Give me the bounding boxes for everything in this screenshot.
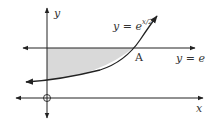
line-label: y = e	[176, 53, 205, 64]
intersection-label: A	[135, 52, 143, 63]
y-axis-label: y	[54, 8, 60, 19]
curve-label: y = ex/2	[113, 21, 153, 32]
curve-label-base: y = e	[113, 20, 142, 33]
curve-label-exponent: x/2	[142, 18, 153, 26]
diagram: y x y = ex/2 A y = e	[0, 0, 212, 124]
x-axis-label: x	[196, 103, 202, 114]
shaded-region	[47, 48, 133, 80]
